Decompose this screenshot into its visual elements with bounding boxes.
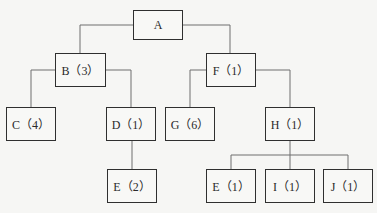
node-e1-label: E（1）	[212, 177, 249, 195]
node-i-label: I（1）	[273, 177, 307, 195]
edge-f-h	[256, 70, 290, 107]
node-d-label: D（1）	[112, 115, 151, 133]
node-a: A	[133, 10, 183, 40]
edge-f-g	[190, 70, 206, 107]
node-j: J（1）	[323, 169, 373, 203]
node-c-label: C（4）	[12, 115, 50, 133]
node-f-label: F（1）	[213, 61, 250, 79]
edge-a-f	[183, 25, 230, 53]
edge-b-d	[106, 70, 131, 107]
node-h-label: H（1）	[271, 115, 310, 133]
node-b: B（3）	[55, 53, 106, 87]
node-g: G（6）	[165, 107, 215, 141]
node-c: C（4）	[6, 107, 56, 141]
node-h: H（1）	[265, 107, 315, 141]
node-e2-label: E（2）	[113, 177, 150, 195]
edge-b-c	[31, 70, 55, 107]
edge-a-b	[80, 25, 133, 53]
node-f: F（1）	[206, 53, 256, 87]
node-i: I（1）	[265, 169, 315, 203]
node-e2: E（2）	[107, 169, 157, 203]
node-g-label: G（6）	[171, 115, 210, 133]
node-a-label: A	[154, 18, 163, 33]
node-b-label: B（3）	[61, 61, 99, 79]
node-j-label: J（1）	[331, 177, 366, 195]
node-d: D（1）	[106, 107, 156, 141]
node-e1: E（1）	[206, 169, 256, 203]
